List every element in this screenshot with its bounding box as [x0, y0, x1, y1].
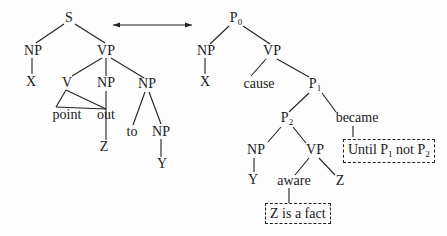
- box-until-p1-not-p2: Until P1 not P2: [343, 139, 435, 163]
- leaf-to: to: [127, 125, 138, 139]
- leaf-x: X: [26, 75, 36, 89]
- node-p1: P1: [309, 77, 321, 93]
- syntax-tree-diagram: S NP VP X V NP NP point out Z to NP Y P0…: [0, 0, 447, 236]
- leaf-became: became: [336, 111, 379, 125]
- leaf-y: Y: [157, 157, 167, 171]
- leaf-x-right: X: [200, 75, 210, 89]
- leaf-cause: cause: [243, 77, 274, 91]
- node-p2: P2: [281, 111, 293, 127]
- box-z-is-a-fact: Z is a fact: [265, 203, 331, 224]
- leaf-y-right: Y: [248, 173, 258, 187]
- node-vp: VP: [97, 44, 115, 58]
- leaf-z: Z: [100, 140, 109, 154]
- node-np-object: NP: [97, 76, 115, 90]
- leaf-z-right: Z: [336, 174, 345, 188]
- node-np2: NP: [247, 143, 265, 157]
- node-vp2: VP: [306, 143, 324, 157]
- node-v: V: [62, 76, 72, 90]
- node-s: S: [65, 11, 73, 25]
- node-np-subject: NP: [24, 44, 42, 58]
- node-p0: P0: [230, 11, 242, 27]
- node-np-subject-right: NP: [197, 44, 215, 58]
- node-np-inner: NP: [152, 125, 170, 139]
- node-vp-right: VP: [263, 44, 281, 58]
- leaf-out: out: [97, 108, 115, 122]
- leaf-point: point: [53, 108, 82, 122]
- node-np-pp: NP: [138, 77, 156, 91]
- leaf-aware: aware: [277, 174, 310, 188]
